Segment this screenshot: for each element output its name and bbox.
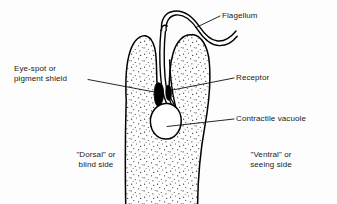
label-ventral-side: "Ventral" orseeing side bbox=[232, 150, 310, 169]
label-eye-spot: Eye-spot orpigment shield bbox=[14, 64, 67, 83]
label-contractile-vacuole: Contractile vacuole bbox=[236, 114, 306, 124]
leader-flagellum bbox=[196, 16, 220, 28]
label-dorsal-line2: blind side bbox=[79, 160, 114, 169]
contractile-vacuole bbox=[150, 103, 181, 139]
cell-diagram bbox=[0, 0, 337, 204]
label-dorsal-line1: "Dorsal" or bbox=[76, 150, 115, 159]
label-dorsal-side: "Dorsal" orblind side bbox=[60, 150, 132, 169]
label-eye-spot-line2: pigment shield bbox=[14, 74, 67, 83]
label-ventral-line1: "Ventral" or bbox=[250, 150, 291, 159]
figure-canvas: Flagellum Eye-spot orpigment shield Rece… bbox=[0, 0, 337, 204]
label-ventral-line2: seeing side bbox=[250, 160, 292, 169]
label-eye-spot-line1: Eye-spot or bbox=[14, 64, 56, 73]
label-receptor: Receptor bbox=[236, 73, 269, 83]
label-flagellum: Flagellum bbox=[222, 11, 258, 21]
eye-spot bbox=[154, 83, 163, 106]
